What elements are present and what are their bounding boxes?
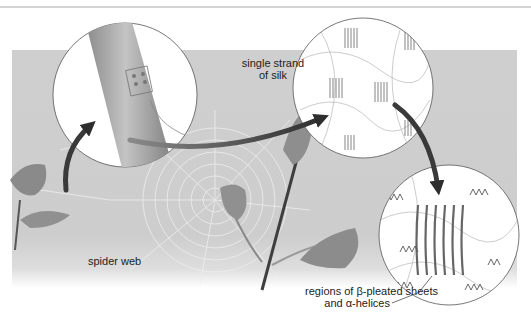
label-line: regions of β-pleated sheets [258,285,438,297]
protein-network-panel [293,18,433,158]
label-single-strand: single strand of silk [228,57,318,81]
plant-illustration [10,115,358,290]
label-line: and α-helices [258,297,438,309]
label-regions: regions of β-pleated sheets and α-helice… [258,285,438,309]
label-line: single strand [228,57,318,69]
label-spider-web: spider web [88,255,141,267]
label-line: of silk [228,69,318,81]
silk-strand-panel [53,15,200,180]
diagram-canvas [0,0,531,318]
beta-sheet-panel [379,165,520,305]
